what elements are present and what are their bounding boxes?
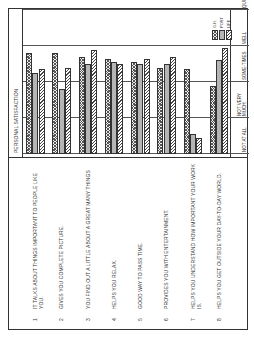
- bar-post: [59, 89, 65, 154]
- statement-number: 7: [190, 309, 202, 321]
- bar-gh: [105, 59, 111, 154]
- statement-number: 3: [85, 309, 91, 321]
- statement-number: 5: [137, 309, 143, 321]
- statement-number: 6: [163, 309, 169, 321]
- statement-text: YOU FIND OUT A LITTLE ABOUT A GREAT MANY…: [85, 170, 91, 309]
- bar-post: [216, 60, 222, 154]
- bar-gh: [131, 62, 137, 154]
- legend-label: LIFE: [226, 20, 231, 28]
- scale-tick-label: NOT AT ALL: [242, 120, 247, 152]
- bar-post: [137, 64, 143, 154]
- statement-text: GOOD WAY TO PASS TIME.: [137, 242, 143, 309]
- bar-gh: [79, 57, 85, 154]
- legend-item: G.H.: [211, 17, 218, 40]
- scale-tick-label: SOME-TIMES: [242, 48, 247, 80]
- bar-life: [91, 50, 97, 154]
- statement-text: PROVIDES YOU WITH ENTERTAINMENT.: [163, 209, 169, 309]
- statement-text: HELPS YOU GET OUTSIDE YOUR DAY-TO-DAY WO…: [216, 173, 222, 309]
- gridline: [23, 45, 249, 46]
- bar-gh: [26, 53, 32, 154]
- bar-post: [190, 134, 196, 154]
- bar-post: [164, 64, 170, 154]
- statement-number: 4: [111, 309, 117, 321]
- bar-life: [170, 57, 176, 154]
- statement-column: 1IT TALKS ABOUT THINGS IMPORTANT TO PEOP…: [9, 157, 247, 329]
- bar-life: [39, 69, 45, 154]
- legend-swatch: [212, 30, 218, 40]
- scale-axis: NOT AT ALLNOT VERY MUCHSOME-TIMESWELLQUI…: [230, 9, 247, 157]
- rotated-page: 1IT TALKS ABOUT THINGS IMPORTANT TO PEOP…: [0, 0, 254, 338]
- bar-gh: [52, 53, 58, 154]
- statement-text: IT TALKS ABOUT THINGS IMPORTANT TO PEOPL…: [32, 161, 44, 309]
- statement-item: 2GIVES YOU COMPLETE PICTURE.: [58, 161, 64, 321]
- legend-item: POST: [218, 17, 225, 40]
- bar-post: [111, 62, 117, 154]
- statement-text: HELPS YOU RELAX.: [111, 260, 117, 309]
- statement-item: 6PROVIDES YOU WITH ENTERTAINMENT.: [163, 161, 169, 321]
- statement-item: 3YOU FIND OUT A LITTLE ABOUT A GREAT MAN…: [85, 161, 91, 321]
- bar-life: [144, 59, 150, 154]
- statement-number: 8: [216, 309, 222, 321]
- legend-swatch: [219, 30, 225, 40]
- bar-life: [222, 48, 228, 154]
- statement-text: HELPS YOU UNDERSTAND HOW IMPORTANT YOUR …: [190, 161, 202, 309]
- scale-tick-label: QUITE WELL: [242, 0, 247, 8]
- statement-number: 1: [32, 309, 44, 321]
- plot-title: PERSONAL SATISFACTION: [9, 9, 23, 157]
- bar-gh: [157, 68, 163, 154]
- statement-text: GIVES YOU COMPLETE PICTURE.: [58, 225, 64, 309]
- plot-area: PERSONAL SATISFACTION NOT AT ALLNOT VERY…: [9, 9, 247, 157]
- statement-number: 2: [58, 309, 64, 321]
- legend: G.H.POSTLIFE: [211, 17, 232, 40]
- legend-item: LIFE: [225, 17, 232, 40]
- scale-tick-label: NOT VERY MUCH: [237, 84, 247, 116]
- statement-item: 1IT TALKS ABOUT THINGS IMPORTANT TO PEOP…: [32, 161, 44, 321]
- legend-swatch: [226, 30, 232, 40]
- statement-item: 7HELPS YOU UNDERSTAND HOW IMPORTANT YOUR…: [190, 161, 202, 321]
- bar-post: [32, 73, 38, 154]
- bar-gh: [184, 69, 190, 154]
- legend-label: G.H.: [212, 20, 217, 28]
- bar-life: [117, 64, 123, 154]
- bar-gh: [210, 86, 216, 154]
- legend-label: POST: [219, 17, 224, 28]
- bar-life: [196, 138, 202, 154]
- scale-tick-label: WELL: [242, 12, 247, 44]
- bar-post: [85, 64, 91, 154]
- bar-life: [65, 68, 71, 154]
- statement-item: 5GOOD WAY TO PASS TIME.: [137, 161, 143, 321]
- gridline: [23, 9, 249, 10]
- chart-frame: 1IT TALKS ABOUT THINGS IMPORTANT TO PEOP…: [8, 8, 248, 330]
- statement-item: 8HELPS YOU GET OUTSIDE YOUR DAY-TO-DAY W…: [216, 161, 222, 321]
- statement-item: 4HELPS YOU RELAX.: [111, 161, 117, 321]
